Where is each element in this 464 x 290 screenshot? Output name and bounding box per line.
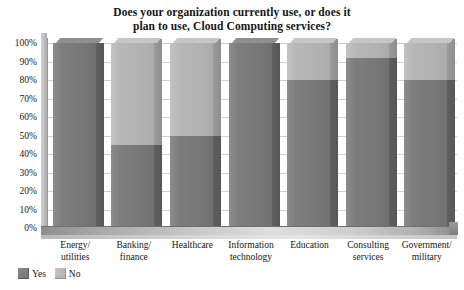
bar-segment-yes[interactable] (404, 80, 447, 228)
bar-segment-yes-side-face (272, 43, 280, 232)
bar-group[interactable] (53, 43, 96, 228)
bar-series-layer (47, 43, 457, 228)
y-tick-40: 40% (20, 149, 37, 159)
bar-top-face (114, 38, 161, 43)
cloud-computing-stacked-bar-chart: Does your organization currently use, or… (0, 0, 464, 290)
x-axis-label: Consultingservices (339, 240, 398, 263)
bar-segment-no[interactable] (404, 43, 447, 80)
bar-segment-yes-side-face (389, 58, 397, 232)
x-axis-category-labels: Energy/utilitiesBanking/financeHealthcar… (41, 240, 461, 270)
y-tick-70: 70% (20, 94, 37, 104)
bar-top-face (290, 38, 337, 43)
x-axis-label-line: Energy/ (46, 240, 105, 252)
x-axis-label-line: Government/ (397, 240, 456, 252)
x-axis-label-line: Healthcare (163, 240, 222, 252)
bar-segment-yes[interactable] (287, 80, 330, 228)
chart-floor-right-cap (449, 222, 458, 235)
x-axis-label-line: technology (222, 252, 281, 264)
bar-top-face (173, 38, 220, 43)
bar-segment-yes-side-face (154, 145, 162, 232)
legend-item-no[interactable]: No (55, 268, 81, 279)
y-tick-60: 60% (20, 112, 37, 122)
bar-segment-no[interactable] (170, 43, 213, 136)
legend-label-no: No (69, 269, 81, 279)
bar-segment-no-side-face (213, 39, 221, 136)
legend-swatch-yes-icon (18, 268, 29, 279)
chart-floor-front (41, 235, 457, 239)
bar-group[interactable] (229, 43, 272, 228)
y-tick-20: 20% (20, 186, 37, 196)
bar-group[interactable] (111, 43, 154, 228)
x-axis-label-line: Information (222, 240, 281, 252)
bar-group[interactable] (346, 43, 389, 228)
y-tick-10: 10% (20, 205, 37, 215)
bar-segment-yes-side-face (213, 136, 221, 233)
bar-segment-yes-side-face (96, 43, 104, 232)
bar-segment-yes[interactable] (229, 43, 272, 228)
bar-segment-no[interactable] (346, 43, 389, 58)
x-axis-label: Healthcare (163, 240, 222, 252)
bar-segment-no-side-face (330, 39, 338, 80)
bar-group[interactable] (287, 43, 330, 228)
y-tick-50: 50% (20, 131, 37, 141)
chart-title-line-1: Does your organization currently use, or… (60, 6, 404, 20)
bar-segment-yes[interactable] (53, 43, 96, 228)
y-tick-0: 0% (24, 223, 37, 233)
x-axis-label-line: services (339, 252, 398, 264)
legend-item-yes[interactable]: Yes (18, 268, 46, 279)
x-axis-label-line: Consulting (339, 240, 398, 252)
y-tick-90: 90% (20, 57, 37, 67)
x-axis-label: Informationtechnology (222, 240, 281, 263)
x-axis-label-line: finance (105, 252, 164, 264)
y-tick-80: 80% (20, 75, 37, 85)
x-axis-label: Education (280, 240, 339, 252)
x-axis-label-line: military (397, 252, 456, 264)
bar-segment-yes[interactable] (170, 136, 213, 229)
y-tick-100: 100% (15, 38, 37, 48)
bar-segment-no[interactable] (111, 43, 154, 145)
chart-legend: Yes No (18, 268, 80, 279)
x-axis-label: Government/military (397, 240, 456, 263)
bar-top-face (349, 38, 396, 43)
bar-segment-no-side-face (154, 39, 162, 145)
legend-label-yes: Yes (32, 269, 46, 279)
bar-segment-yes-side-face (330, 80, 338, 232)
y-axis-tick-labels: 100% 90% 80% 70% 60% 50% 40% 30% 20% 10%… (0, 0, 44, 290)
legend-swatch-no-icon (55, 268, 66, 279)
x-axis-label-line: Banking/ (105, 240, 164, 252)
x-axis-label: Energy/utilities (46, 240, 105, 263)
bar-segment-yes[interactable] (346, 58, 389, 228)
bar-top-face (232, 38, 279, 43)
bar-group[interactable] (404, 43, 447, 228)
chart-title: Does your organization currently use, or… (60, 6, 404, 33)
x-axis-label-line: utilities (46, 252, 105, 264)
bar-segment-no[interactable] (287, 43, 330, 80)
x-axis-label: Banking/finance (105, 240, 164, 263)
bar-top-face (407, 38, 454, 43)
bar-segment-yes[interactable] (111, 145, 154, 228)
chart-title-line-2: plan to use, Cloud Computing services? (60, 20, 404, 34)
y-tick-30: 30% (20, 168, 37, 178)
bar-top-face (56, 38, 103, 43)
x-axis-label-line: Education (280, 240, 339, 252)
bar-group[interactable] (170, 43, 213, 228)
bar-segment-yes-side-face (447, 80, 455, 232)
bar-segment-no-side-face (447, 39, 455, 80)
